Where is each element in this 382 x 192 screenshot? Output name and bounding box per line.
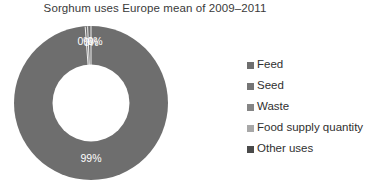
- legend-swatch-icon: [247, 62, 254, 69]
- legend-swatch-icon: [247, 125, 254, 132]
- legend-swatch-icon: [247, 146, 254, 153]
- donut-hole: [53, 65, 130, 142]
- legend-item-label: Waste: [257, 101, 289, 113]
- slice-label-major: 99%: [69, 152, 113, 164]
- legend-item-waste[interactable]: Waste: [247, 97, 379, 117]
- chart-legend: Feed Seed Waste Food supply quantity Oth…: [247, 55, 379, 160]
- legend-item-label: Other uses: [257, 143, 313, 155]
- chart-title: Sorghum uses Europe mean of 2009–2011: [0, 2, 310, 14]
- donut-chart: Sorghum uses Europe mean of 2009–2011 0%…: [0, 0, 382, 192]
- legend-item-feed[interactable]: Feed: [247, 55, 379, 75]
- legend-item-seed[interactable]: Seed: [247, 76, 379, 96]
- legend-swatch-icon: [247, 104, 254, 111]
- donut-plot-area: 0% 0% 0% 99%: [14, 26, 168, 180]
- legend-item-label: Food supply quantity: [257, 122, 363, 134]
- slice-label-zero-c: 0%: [76, 35, 114, 47]
- legend-swatch-icon: [247, 83, 254, 90]
- legend-item-food-supply-quantity[interactable]: Food supply quantity: [247, 118, 379, 138]
- legend-item-label: Feed: [257, 59, 283, 71]
- legend-item-label: Seed: [257, 80, 284, 92]
- legend-item-other-uses[interactable]: Other uses: [247, 139, 379, 159]
